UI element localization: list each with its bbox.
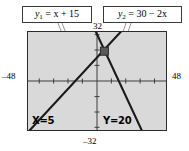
graph-figure: y1 = x + 15 y2 = 30 − 2x 32 –48 48 –32 [0, 0, 189, 151]
readout-x-value: X=5 [32, 116, 54, 126]
readout-y-value: Y=20 [103, 116, 131, 126]
equation-label-y2: y2 = 30 − 2x [103, 6, 182, 23]
equation-label-y1-subscript: 1 [39, 13, 43, 21]
equation-label-y1-expression: = x + 15 [45, 8, 79, 19]
axis-label-y-max: 32 [93, 22, 102, 31]
intersection-cursor [100, 47, 108, 55]
axis-label-x-min: –48 [2, 72, 16, 81]
axis-label-y-min: –32 [83, 137, 97, 146]
axis-label-x-max: 48 [172, 72, 181, 81]
equation-label-y1: y1 = x + 15 [22, 6, 92, 23]
equation-label-y2-subscript: 2 [122, 13, 126, 21]
equation-label-y2-expression: = 30 − 2x [128, 8, 167, 19]
